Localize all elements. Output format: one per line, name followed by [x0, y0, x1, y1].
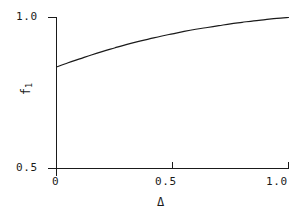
x-axis-tick-label-1: 1.0 — [266, 176, 288, 187]
y-axis-title-base: f — [19, 88, 33, 95]
chart-figure: 1.0 0.5 0 0.5 1.0 Δ f1 — [0, 0, 307, 218]
plot-canvas — [0, 0, 307, 218]
y-axis-tick-label-0p5: 0.5 — [16, 162, 38, 173]
y-axis-title: f1 — [4, 76, 38, 110]
x-axis-title-text: Δ — [157, 196, 164, 208]
data-series-line — [57, 18, 289, 68]
y-axis-tick-label-1: 1.0 — [16, 11, 38, 22]
x-axis-tick-label-0: 0 — [52, 176, 59, 187]
y-axis-title-text: f1 — [8, 72, 34, 106]
x-axis-tick-label-0p5: 0.5 — [155, 176, 177, 187]
y-axis-title-subscript: 1 — [24, 83, 34, 88]
x-axis-title: Δ — [0, 196, 307, 208]
